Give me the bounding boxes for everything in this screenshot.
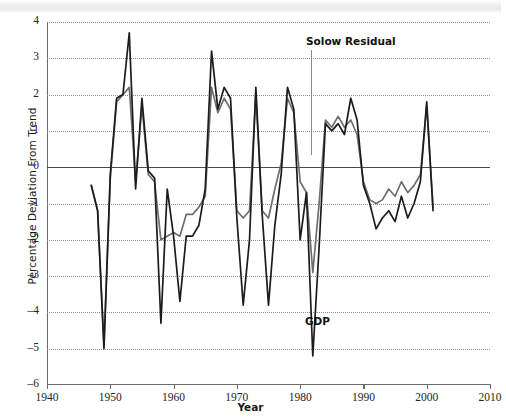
y-tick-label: –2	[13, 232, 39, 244]
gdp-line	[91, 33, 433, 356]
y-tick-label: –6	[13, 377, 39, 389]
y-tick-label: 4	[13, 14, 39, 26]
solow-leader-line	[311, 50, 312, 155]
plot-area: 43210–1–2–3–4–5–6 1940195019601970198019…	[47, 22, 490, 385]
x-tick-label: 1940	[24, 391, 70, 403]
y-tick-label: 2	[13, 87, 39, 99]
gdp-label: GDP	[305, 315, 330, 327]
solow-residual-label: Solow Residual	[306, 35, 396, 47]
x-tick-label: 1990	[340, 391, 386, 403]
x-tick-mark	[490, 384, 491, 389]
data-lines	[47, 22, 490, 385]
y-tick-label: –4	[13, 304, 39, 316]
y-tick-label: –1	[13, 196, 39, 208]
y-tick-label: –3	[13, 268, 39, 280]
x-tick-label: 1970	[214, 391, 260, 403]
x-tick-label: 1960	[151, 391, 197, 403]
x-tick-label: 1980	[277, 391, 323, 403]
y-tick-label: 3	[13, 50, 39, 62]
y-tick-label: 1	[13, 123, 39, 135]
x-tick-label: 2000	[404, 391, 450, 403]
x-tick-label: 1950	[87, 391, 133, 403]
y-tick-label: –5	[13, 341, 39, 353]
x-tick-label: 2010	[467, 391, 506, 403]
y-tick-label: 0	[13, 159, 39, 171]
